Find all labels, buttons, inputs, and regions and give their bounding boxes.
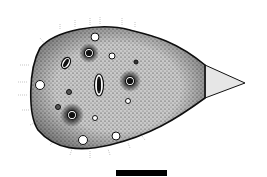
scale-bar xyxy=(116,170,167,176)
tail xyxy=(205,65,245,98)
cell-illustration xyxy=(0,0,267,177)
